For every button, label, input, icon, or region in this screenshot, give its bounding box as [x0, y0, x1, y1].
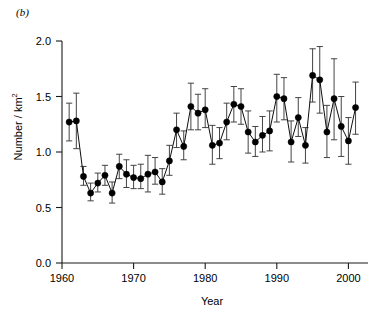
axes	[62, 41, 368, 263]
y-tick-label: 2.0	[36, 35, 51, 47]
y-axis-label: Number / km2	[10, 62, 24, 192]
data-point-marker	[231, 101, 237, 107]
data-point-marker	[202, 107, 208, 113]
data-point-marker	[80, 173, 86, 179]
data-point-marker	[66, 119, 72, 125]
data-point-marker	[345, 138, 351, 144]
data-point-marker	[166, 158, 172, 164]
x-axis-label: Year	[62, 295, 362, 307]
data-point-marker	[159, 179, 165, 185]
data-point-marker	[224, 119, 230, 125]
data-point-marker	[73, 118, 79, 124]
data-point-marker	[324, 129, 330, 135]
data-point-marker	[173, 127, 179, 133]
data-point-marker	[88, 190, 94, 196]
data-point-marker	[131, 174, 137, 180]
y-tick-label: 0.0	[36, 257, 51, 269]
error-bars	[66, 47, 359, 204]
data-point-marker	[123, 171, 129, 177]
x-tick-label: 1960	[50, 272, 74, 284]
x-tick-label: 2000	[336, 272, 360, 284]
data-point-marker	[331, 96, 337, 102]
data-point-marker	[152, 169, 158, 175]
y-axis-ticks: 0.00.51.01.52.0	[36, 35, 62, 269]
data-point-marker	[252, 139, 258, 145]
data-point-marker	[302, 142, 308, 148]
data-point-marker	[274, 93, 280, 99]
data-point-marker	[95, 180, 101, 186]
data-point-marker	[352, 105, 358, 111]
x-axis-ticks: 19601970198019902000	[50, 263, 361, 284]
data-point-marker	[338, 123, 344, 129]
data-point-marker	[238, 103, 244, 109]
figure-panel-b: (b) Number / km2 Year 0.00.51.01.52.0 19…	[0, 0, 383, 320]
data-point-marker	[116, 163, 122, 169]
x-tick-label: 1990	[265, 272, 289, 284]
data-point-marker	[288, 139, 294, 145]
data-point-marker	[102, 172, 108, 178]
panel-label: (b)	[16, 6, 29, 18]
data-point-marker	[138, 176, 144, 182]
data-point-marker	[209, 142, 215, 148]
data-point-marker	[181, 143, 187, 149]
data-point-marker	[195, 110, 201, 116]
data-point-marker	[259, 132, 265, 138]
data-point-marker	[267, 128, 273, 134]
data-point-marker	[188, 103, 194, 109]
data-point-marker	[317, 77, 323, 83]
data-point-marker	[295, 114, 301, 120]
y-tick-label: 0.5	[36, 202, 51, 214]
data-point-marker	[216, 140, 222, 146]
data-point-marker	[145, 171, 151, 177]
y-tick-label: 1.5	[36, 91, 51, 103]
line-chart-plot-area: 0.00.51.01.52.0 19601970198019902000	[0, 0, 383, 320]
y-tick-label: 1.0	[36, 146, 51, 158]
data-point-marker	[245, 129, 251, 135]
data-point-marker	[281, 96, 287, 102]
data-point-marker	[310, 72, 316, 78]
x-tick-label: 1970	[121, 272, 145, 284]
data-point-marker	[109, 190, 115, 196]
x-tick-label: 1980	[193, 272, 217, 284]
